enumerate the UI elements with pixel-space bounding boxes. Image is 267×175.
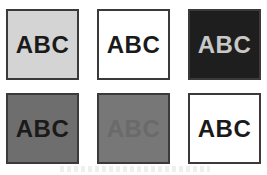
box-label: ABC [198,115,252,143]
contrast-box-white-2: ABC [188,93,261,164]
contrast-box-white: ABC [97,9,170,80]
contrast-box-gray-low-contrast: ABC [97,93,170,164]
faint-caption [60,166,210,172]
box-label: ABC [16,115,70,143]
contrast-box-black: ABC [188,9,261,80]
contrast-box-light-gray: ABC [6,9,79,80]
box-label: ABC [107,115,161,143]
box-label: ABC [107,31,161,59]
box-label: ABC [16,31,70,59]
contrast-box-dark-gray: ABC [6,93,79,164]
box-label: ABC [198,31,252,59]
